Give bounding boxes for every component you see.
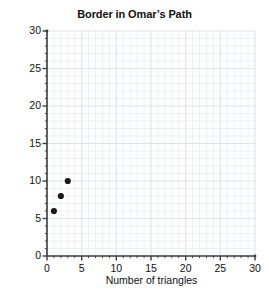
x-tick-label: 20 <box>171 263 201 274</box>
y-tick-label: 10 <box>11 175 41 186</box>
y-tick-label: 15 <box>11 138 41 149</box>
x-tick-label: 15 <box>136 263 166 274</box>
x-axis-label: Number of triangles <box>47 274 256 286</box>
y-tick-label: 30 <box>11 25 41 36</box>
plot-area <box>47 31 255 256</box>
data-point <box>58 193 64 199</box>
x-tick-label: 0 <box>32 263 62 274</box>
y-tick-label: 25 <box>11 63 41 74</box>
x-tick-label: 25 <box>205 263 235 274</box>
y-tick-label: 5 <box>11 213 41 224</box>
chart-title: Border in Omar’s Path <box>0 8 269 20</box>
x-tick-label: 5 <box>67 263 97 274</box>
y-tick-label: 20 <box>11 100 41 111</box>
scatter-series <box>47 31 255 256</box>
data-point <box>51 208 57 214</box>
x-tick-label: 30 <box>240 263 269 274</box>
data-point <box>65 178 71 184</box>
chart-figure: Border in Omar’s Path Number of border p… <box>0 0 269 296</box>
x-tick-label: 10 <box>101 263 131 274</box>
y-tick-label: 0 <box>11 250 41 261</box>
